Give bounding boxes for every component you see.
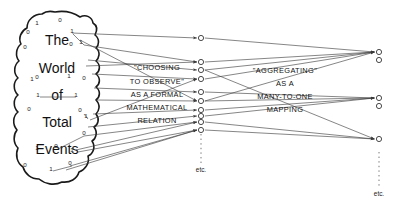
right-node-2[interactable]	[376, 95, 381, 100]
edge-middle-to-right-8	[205, 122, 375, 139]
right-node-column	[376, 49, 381, 188]
middle-caption-line-5: RELATION	[137, 116, 176, 125]
blob-bit-8: 1	[30, 75, 34, 82]
right-caption: "AGGREGATING" AS A MANY-TO-ONE MAPPING	[253, 66, 317, 114]
right-caption-line-3: MANY-TO-ONE	[257, 92, 313, 101]
middle-node-1[interactable]	[198, 59, 203, 64]
right-node-4[interactable]	[376, 136, 381, 141]
middle-node-4[interactable]	[198, 89, 203, 94]
right-caption-line-1: "AGGREGATING"	[253, 66, 317, 75]
blob-title-line-4: Total	[42, 114, 72, 130]
etc-label-middle: etc.	[196, 166, 207, 173]
blob-title-line-1: The	[45, 32, 69, 48]
blob-bit-1: 0	[58, 16, 62, 23]
etc-labels: etc. etc.	[196, 166, 385, 197]
blob-bit-11: 1	[36, 91, 40, 98]
middle-node-8[interactable]	[198, 119, 203, 124]
right-node-3[interactable]	[376, 103, 381, 108]
middle-node-column	[198, 35, 203, 164]
blob-bit-21: 1	[49, 165, 53, 172]
right-node-1[interactable]	[376, 57, 381, 62]
diagram-svg: 10010010110110010101010 The World of Tot…	[0, 0, 403, 209]
right-caption-line-4: MAPPING	[267, 105, 304, 114]
figure-canvas: 10010010110110010101010 The World of Tot…	[0, 0, 403, 209]
edge-blob-to-middle-5	[96, 100, 197, 101]
blob-bit-16: 0	[82, 129, 86, 136]
blob-title-line-2: World	[39, 60, 75, 76]
middle-node-3[interactable]	[198, 76, 203, 81]
middle-caption-line-3: AS A FORMAL	[131, 90, 184, 99]
middle-caption-line-4: MATHEMATICAL	[127, 103, 188, 112]
blob-title-line-3: of	[51, 87, 63, 103]
middle-caption-line-2: TO OBSERVE"	[130, 77, 184, 86]
edge-blob-to-middle-1	[84, 45, 197, 62]
middle-caption-line-1: "CHOOSING	[134, 63, 180, 72]
blob-title-line-5: Events	[36, 141, 79, 157]
edges-middle-to-right	[205, 38, 375, 139]
blob-bit-22: 0	[68, 159, 72, 166]
blob-bit-4: 0	[23, 43, 27, 50]
middle-node-7[interactable]	[198, 113, 203, 118]
blob-bit-5: 0	[69, 40, 73, 47]
middle-node-5[interactable]	[198, 98, 203, 103]
blob-bit-10: 0	[82, 74, 86, 81]
middle-node-2[interactable]	[198, 67, 203, 72]
middle-node-9[interactable]	[198, 127, 203, 132]
right-caption-line-2: AS A	[276, 79, 294, 88]
edge-middle-to-right-0	[205, 38, 375, 52]
blob-bit-14: 0	[78, 106, 82, 113]
middle-node-6[interactable]	[198, 107, 203, 112]
middle-caption: "CHOOSING TO OBSERVE" AS A FORMAL MATHEM…	[127, 63, 188, 125]
edge-middle-to-right-9	[205, 130, 375, 139]
blob-bit-2: 0	[26, 28, 30, 35]
blob-bit-0: 1	[35, 19, 39, 26]
blob-bit-13: 0	[27, 105, 31, 112]
edge-middle-to-right-1	[205, 52, 375, 62]
blob-bit-20: 0	[23, 161, 27, 168]
etc-label-right: etc.	[374, 190, 385, 197]
middle-node-0[interactable]	[198, 35, 203, 40]
right-node-0[interactable]	[376, 49, 381, 54]
